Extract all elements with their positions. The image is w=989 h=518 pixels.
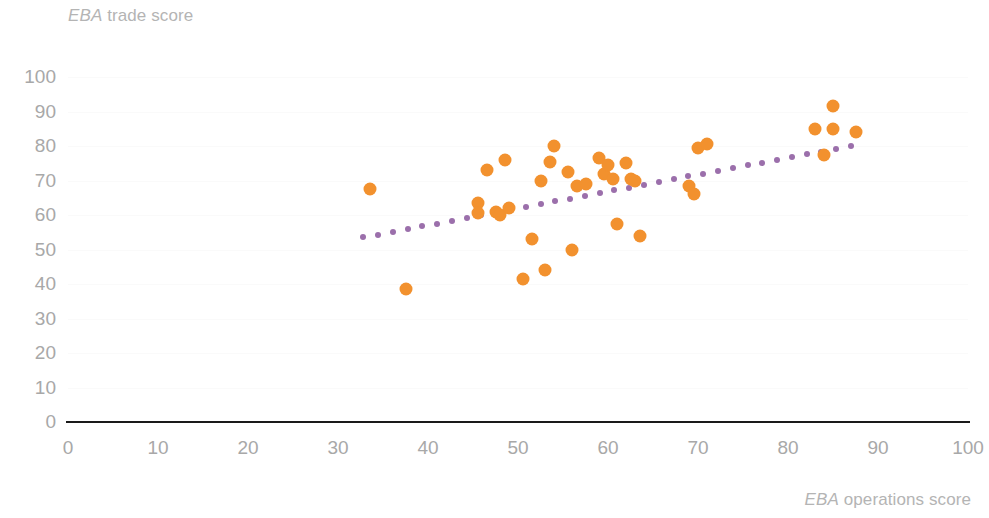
trendline-dot: [360, 234, 366, 240]
data-point: [701, 138, 714, 151]
data-point: [525, 233, 538, 246]
data-point: [480, 164, 493, 177]
trendline-dot: [390, 229, 396, 235]
x-tick-label: 80: [777, 437, 798, 459]
trendline-dot: [538, 201, 544, 207]
y-tick-label: 80: [35, 135, 56, 157]
y-tick-label: 10: [35, 377, 56, 399]
gridline: [68, 77, 968, 78]
scatter-chart: EBA trade score EBA operations score 010…: [0, 0, 989, 518]
data-point: [827, 100, 840, 113]
trendline-dot: [789, 154, 795, 160]
x-tick-label: 50: [507, 437, 528, 459]
trendline-dot: [375, 232, 381, 238]
y-tick-label: 100: [24, 66, 56, 88]
trendline-dot: [419, 223, 425, 229]
gridline: [68, 388, 968, 389]
y-tick-label: 70: [35, 170, 56, 192]
trendline-dot: [848, 143, 854, 149]
data-point: [827, 122, 840, 135]
x-tick-label: 0: [63, 437, 74, 459]
trendline-dot: [774, 157, 780, 163]
data-point: [687, 188, 700, 201]
data-point: [539, 264, 552, 277]
y-tick-label: 20: [35, 342, 56, 364]
x-tick-label: 40: [417, 437, 438, 459]
trendline-dot: [715, 168, 721, 174]
x-tick-label: 70: [687, 437, 708, 459]
y-tick-label: 60: [35, 204, 56, 226]
trendline-dot: [671, 176, 677, 182]
gridline: [68, 250, 968, 251]
data-point: [548, 140, 561, 153]
x-tick-label: 60: [597, 437, 618, 459]
x-axis-line: [66, 421, 970, 423]
y-tick-label: 30: [35, 308, 56, 330]
gridline: [68, 181, 968, 182]
trendline-dot: [464, 215, 470, 221]
gridline: [68, 319, 968, 320]
data-point: [498, 153, 511, 166]
data-point: [620, 157, 633, 170]
data-point: [809, 122, 822, 135]
trendline-dot: [582, 193, 588, 199]
x-tick-label: 90: [867, 437, 888, 459]
data-point: [503, 202, 516, 215]
trendline-dot: [567, 196, 573, 202]
x-tick-label: 100: [952, 437, 984, 459]
data-point: [561, 165, 574, 178]
data-point: [606, 172, 619, 185]
y-axis-tick-labels: 0102030405060708090100: [0, 0, 56, 518]
data-point: [516, 272, 529, 285]
y-tick-label: 50: [35, 239, 56, 261]
trendline-dot: [641, 182, 647, 188]
trendline-dot: [730, 165, 736, 171]
data-point: [579, 177, 592, 190]
x-axis-title-emphasis: EBA: [805, 490, 839, 509]
data-point: [471, 207, 484, 220]
trendline-dot: [833, 146, 839, 152]
data-point: [543, 155, 556, 168]
trendline-dot: [523, 204, 529, 210]
y-tick-label: 40: [35, 273, 56, 295]
data-point: [534, 174, 547, 187]
trendline-dot: [434, 221, 440, 227]
data-point: [818, 148, 831, 161]
x-tick-label: 20: [237, 437, 258, 459]
trendline-dot: [449, 218, 455, 224]
gridline: [68, 215, 968, 216]
y-tick-label: 90: [35, 101, 56, 123]
trendline-dot: [759, 160, 765, 166]
trendline-dot: [611, 187, 617, 193]
x-axis-title: EBA operations score: [805, 490, 971, 510]
plot-area: [68, 77, 968, 422]
x-tick-label: 30: [327, 437, 348, 459]
data-point: [629, 174, 642, 187]
data-point: [399, 283, 412, 296]
data-point: [611, 217, 624, 230]
data-point: [633, 229, 646, 242]
y-axis-title-rest: trade score: [102, 6, 193, 25]
y-axis-title: EBA trade score: [68, 6, 193, 26]
trendline-dot: [597, 190, 603, 196]
trendline-dot: [745, 162, 751, 168]
x-axis-title-rest: operations score: [839, 490, 971, 509]
gridline: [68, 353, 968, 354]
data-point: [566, 243, 579, 256]
trendline-dot: [656, 179, 662, 185]
data-point: [849, 126, 862, 139]
x-tick-label: 10: [147, 437, 168, 459]
trendline-dot: [552, 198, 558, 204]
trendline-dot: [405, 226, 411, 232]
y-tick-label: 0: [45, 411, 56, 433]
data-point: [602, 158, 615, 171]
y-axis-title-emphasis: EBA: [68, 6, 102, 25]
trendline-dot: [700, 171, 706, 177]
trendline-dot: [804, 151, 810, 157]
data-point: [363, 183, 376, 196]
